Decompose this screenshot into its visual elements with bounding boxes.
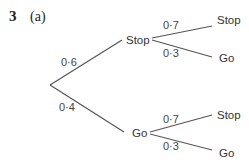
prob-stop-stop: 0·7 [163,19,179,31]
edge-go-go [150,134,212,150]
prob-root-go: 0·4 [59,101,75,113]
leaf-stop-stop: Stop [217,14,241,26]
edge-go-stop [150,115,212,132]
leaf-stop-go: Go [219,52,234,64]
prob-stop-go: 0·3 [163,47,179,59]
leaf-go-go: Go [219,147,234,159]
node-go: Go [132,127,147,139]
edge-stop-stop [152,26,212,38]
prob-go-go: 0·3 [163,140,179,152]
prob-root-stop: 0·6 [61,56,77,68]
probability-tree: 0·6 0·4 Stop Go 0·7 0·3 Stop Go 0·7 0·3 … [0,0,249,165]
prob-go-stop: 0·7 [163,113,179,125]
edge-stop-go [152,40,212,57]
leaf-go-stop: Stop [217,109,241,121]
node-stop: Stop [126,34,150,46]
